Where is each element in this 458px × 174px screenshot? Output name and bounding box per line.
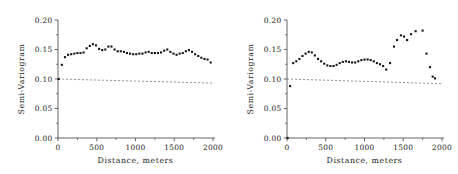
- data-point: [104, 48, 106, 50]
- data-point: [145, 51, 147, 53]
- data-point: [351, 61, 353, 63]
- data-point: [308, 51, 310, 53]
- data-point: [135, 53, 137, 55]
- data-point: [83, 51, 85, 53]
- reference-dashed-line: [287, 79, 442, 84]
- data-point: [339, 62, 341, 64]
- data-point: [410, 33, 412, 35]
- variogram-plot-right: 0.000.050.100.150.200500100015002000Dist…: [229, 0, 458, 174]
- data-point: [148, 51, 150, 53]
- data-point: [123, 51, 125, 53]
- data-point: [298, 58, 300, 60]
- data-point: [182, 52, 184, 54]
- data-point: [329, 65, 331, 67]
- y-tick-label: 0.15: [35, 45, 53, 54]
- x-axis-title: Distance, meters: [98, 156, 174, 165]
- data-point: [172, 53, 174, 55]
- data-point: [422, 30, 424, 32]
- data-point: [373, 60, 375, 62]
- data-point: [154, 52, 156, 54]
- data-point: [311, 51, 313, 53]
- data-point: [110, 46, 112, 48]
- data-point: [403, 35, 405, 37]
- x-tick-label: 500: [89, 143, 104, 152]
- data-point: [292, 62, 294, 64]
- data-point: [179, 53, 181, 55]
- data-point: [336, 64, 338, 66]
- x-axis-title: Distance, meters: [327, 156, 403, 165]
- variogram-plot-left: 0.000.050.100.150.200500100015002000Dist…: [0, 0, 229, 174]
- data-point: [363, 58, 365, 60]
- data-point: [126, 52, 128, 54]
- data-point: [163, 50, 165, 52]
- y-tick-label: 0.05: [35, 104, 53, 113]
- data-point: [61, 64, 63, 66]
- data-point: [357, 60, 359, 62]
- data-point: [73, 53, 75, 55]
- data-point: [101, 49, 103, 51]
- data-point: [200, 57, 202, 59]
- data-point: [166, 48, 168, 50]
- data-point: [289, 85, 291, 87]
- data-point: [320, 60, 322, 62]
- data-point: [379, 63, 381, 65]
- data-point: [194, 53, 196, 55]
- y-tick-label: 0.20: [264, 16, 282, 25]
- y-tick-label: 0.00: [264, 134, 282, 143]
- data-point: [415, 30, 417, 32]
- data-point: [169, 51, 171, 53]
- data-point: [89, 45, 91, 47]
- data-point: [332, 65, 334, 67]
- data-point: [367, 58, 369, 60]
- data-point: [432, 76, 434, 78]
- data-point: [107, 46, 109, 48]
- data-point: [120, 50, 122, 52]
- data-point: [160, 51, 162, 53]
- data-point-group: [287, 30, 437, 139]
- data-point: [185, 50, 187, 52]
- x-tick-label: 1500: [164, 143, 184, 152]
- variogram-panel-left: 0.000.050.100.150.200500100015002000Dist…: [0, 0, 229, 174]
- data-point: [389, 62, 391, 64]
- data-point: [376, 62, 378, 64]
- data-point: [67, 54, 69, 56]
- data-point: [406, 39, 408, 41]
- y-tick-label: 0.15: [264, 45, 282, 54]
- data-point: [354, 61, 356, 63]
- data-point: [191, 51, 193, 53]
- x-tick-label: 2000: [203, 143, 223, 152]
- x-tick-label: 500: [318, 143, 333, 152]
- data-point: [429, 66, 431, 68]
- data-point: [117, 50, 119, 52]
- y-tick-label: 0.00: [35, 134, 53, 143]
- data-point: [385, 69, 387, 71]
- data-point: [138, 53, 140, 55]
- data-point: [345, 60, 347, 62]
- data-point: [70, 53, 72, 55]
- y-tick-label: 0.10: [35, 75, 53, 84]
- data-point: [305, 53, 307, 55]
- data-point: [360, 59, 362, 61]
- data-point: [326, 64, 328, 66]
- data-point: [382, 65, 384, 67]
- x-tick-label: 1000: [354, 143, 374, 152]
- y-tick-label: 0.20: [35, 16, 53, 25]
- data-point: [317, 58, 319, 60]
- data-point: [151, 52, 153, 54]
- data-point: [314, 54, 316, 56]
- data-point: [141, 53, 143, 55]
- two-panel-variogram-figure: 0.000.050.100.150.200500100015002000Dist…: [0, 0, 458, 174]
- x-tick-label: 0: [284, 143, 289, 152]
- data-point: [370, 59, 372, 61]
- variogram-panel-right: 0.000.050.100.150.200500100015002000Dist…: [229, 0, 458, 174]
- data-point: [323, 63, 325, 65]
- data-point: [207, 58, 209, 60]
- data-point: [295, 60, 297, 62]
- y-axis-title: Semi-Variogram: [17, 44, 26, 115]
- data-point: [434, 77, 436, 79]
- data-point-group: [58, 43, 212, 80]
- data-point: [203, 58, 205, 60]
- y-tick-label: 0.05: [264, 104, 282, 113]
- data-point: [176, 54, 178, 56]
- data-point: [197, 55, 199, 57]
